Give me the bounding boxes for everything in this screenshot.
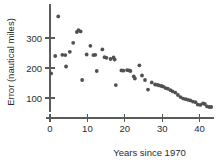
x-axis-title: Years since 1970 [113,147,186,158]
data-point [209,105,213,109]
y-tick-label-100: 100 [26,93,42,104]
y-tick-label-300: 300 [26,33,42,44]
x-tick-label-40: 40 [194,123,205,134]
data-point [114,83,118,87]
x-tick-label-30: 30 [157,123,168,134]
scatter-plot-figure: 100200300 010203040 Years since 1970Erro… [0,0,221,162]
data-point [64,65,68,69]
data-point [49,72,53,76]
data-point [88,44,92,48]
data-point [150,81,154,85]
data-point [100,48,104,52]
data-point [79,30,83,34]
data-point [105,56,109,60]
data-point [143,78,147,82]
data-point [146,88,150,92]
data-point [140,74,144,78]
x-tick-label-0: 0 [47,123,52,134]
data-points-layer [49,15,213,109]
x-tick-label-20: 20 [120,123,131,134]
data-point [68,50,72,54]
y-axis-title: Error (nautical miles) [5,18,16,106]
data-point [133,77,137,81]
data-point [113,58,117,62]
plot-canvas: 100200300 010203040 Years since 1970Erro… [0,0,221,162]
data-point [53,54,57,58]
data-point [85,53,89,57]
data-point [93,53,97,57]
data-point [56,15,60,19]
data-point [121,69,125,73]
y-tick-label-200: 200 [26,63,42,74]
data-point [80,78,84,82]
y-axis: 100200300 [26,4,55,112]
data-point [137,63,141,67]
data-point [63,53,67,57]
data-point [71,41,75,45]
data-point [129,69,133,73]
data-point [95,69,99,73]
x-tick-label-10: 10 [82,123,93,134]
x-axis: 010203040 [46,114,214,134]
